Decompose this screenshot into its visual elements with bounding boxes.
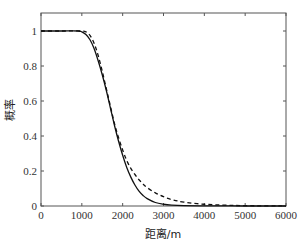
chart: 0100020003000400050006000 00.20.40.60.81… bbox=[0, 0, 308, 244]
x-tick-label: 3000 bbox=[153, 209, 176, 221]
x-tick-label: 2000 bbox=[112, 209, 135, 221]
x-tick-label: 6000 bbox=[275, 209, 298, 221]
x-tick-label: 5000 bbox=[234, 209, 257, 221]
x-tick-label: 4000 bbox=[193, 209, 216, 221]
y-tick-label: 0.8 bbox=[23, 60, 37, 72]
y-tick-label: 0 bbox=[32, 200, 38, 212]
y-tick-label: 1 bbox=[32, 25, 38, 37]
y-tick-label: 0.6 bbox=[23, 95, 37, 107]
plot-area bbox=[41, 13, 286, 206]
x-tick-label: 0 bbox=[38, 209, 44, 221]
y-tick-label: 0.2 bbox=[23, 165, 37, 177]
x-axis-label: 距离/m bbox=[145, 227, 181, 241]
y-tick-label: 0.4 bbox=[23, 130, 37, 142]
y-axis-label: 概率 bbox=[3, 99, 17, 121]
x-tick-label: 1000 bbox=[71, 209, 94, 221]
